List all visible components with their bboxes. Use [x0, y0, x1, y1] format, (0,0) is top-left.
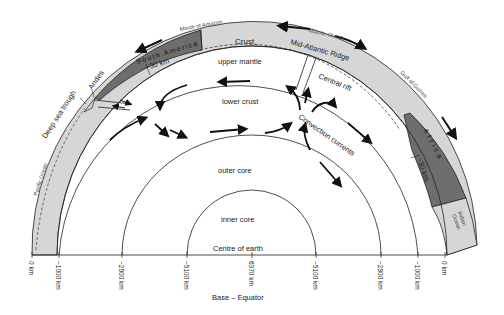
deep-sea-trough-pointer — [80, 98, 86, 104]
tick-label-1000km-left: ~1000 km — [55, 261, 62, 290]
tick-label-5100km-left: ~5100 km — [183, 261, 190, 290]
outer-core-boundary — [122, 135, 381, 255]
label-crust: Crust — [235, 37, 255, 46]
tick-label-2900km-right: ~2900 km — [377, 261, 384, 290]
label-convection-currents: Convection currents — [297, 112, 357, 158]
tick-label-0km-left: 0 km — [28, 261, 35, 275]
tick-label-2900km-left: ~2900 km — [118, 261, 125, 290]
tick-label-5100km-right: ~5100 km — [312, 261, 319, 290]
central-rift — [296, 55, 316, 93]
tick-label-6370km: 6370 km — [248, 261, 255, 286]
label-central-rift: Central rift — [317, 72, 353, 94]
label-upper-mantle: upper mantle — [218, 57, 262, 66]
label-lower-crust: lower crust — [222, 97, 259, 106]
earth-cross-section-diagram: Mouth of Amazon South America ~30 km Cru… — [0, 0, 504, 315]
subduction-arrow-2 — [114, 106, 125, 108]
label-outer-core: outer core — [218, 166, 252, 175]
label-inner-core: inner core — [221, 215, 254, 224]
label-centre-of-earth: Centre of earth — [213, 244, 263, 253]
tick-label-0km-right: 0 km — [441, 261, 448, 275]
axis-label-base-equator: Base – Equator — [212, 293, 264, 302]
tick-label-1000km-right: ~1000 km — [414, 261, 421, 290]
